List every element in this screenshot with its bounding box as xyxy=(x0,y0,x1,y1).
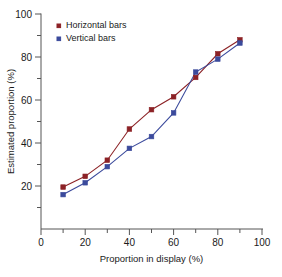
data-point-marker xyxy=(83,180,88,185)
x-axis-title: Proportion in display (%) xyxy=(100,253,204,264)
data-point-marker xyxy=(83,174,88,179)
data-point-marker xyxy=(193,75,198,80)
line-chart: 20406080100020406080100Proportion in dis… xyxy=(0,0,282,277)
data-point-marker xyxy=(171,111,176,116)
data-point-marker xyxy=(193,70,198,75)
x-axis-tick-label: 40 xyxy=(124,237,136,248)
y-axis-title: Estimated proportion (%) xyxy=(5,69,16,174)
legend-label: Vertical bars xyxy=(66,33,116,43)
data-point-marker xyxy=(61,185,66,190)
y-axis-tick-label: 20 xyxy=(21,181,33,192)
legend-swatch xyxy=(57,24,61,28)
data-point-marker xyxy=(171,94,176,99)
series-line-2 xyxy=(63,43,240,195)
x-axis-tick-label: 100 xyxy=(254,237,271,248)
legend-label: Horizontal bars xyxy=(66,20,127,30)
data-point-marker xyxy=(238,41,243,46)
data-point-marker xyxy=(105,158,110,163)
legend-swatch xyxy=(57,37,61,41)
y-axis-tick-label: 80 xyxy=(21,52,33,63)
y-axis-tick-label: 40 xyxy=(21,138,33,149)
x-axis-tick-label: 20 xyxy=(80,237,92,248)
data-point-marker xyxy=(216,57,221,62)
y-axis-tick-label: 60 xyxy=(21,95,33,106)
data-point-marker xyxy=(127,127,132,132)
data-point-marker xyxy=(61,192,66,197)
x-axis-tick-label: 0 xyxy=(38,237,44,248)
data-point-marker xyxy=(216,51,221,56)
x-axis-tick-label: 60 xyxy=(168,237,180,248)
y-axis-tick-label: 100 xyxy=(15,9,32,20)
data-point-marker xyxy=(149,134,154,139)
data-point-marker xyxy=(149,107,154,112)
data-point-marker xyxy=(127,146,132,151)
x-axis-tick-label: 80 xyxy=(212,237,224,248)
chart-container: 20406080100020406080100Proportion in dis… xyxy=(0,0,282,277)
data-point-marker xyxy=(105,164,110,169)
